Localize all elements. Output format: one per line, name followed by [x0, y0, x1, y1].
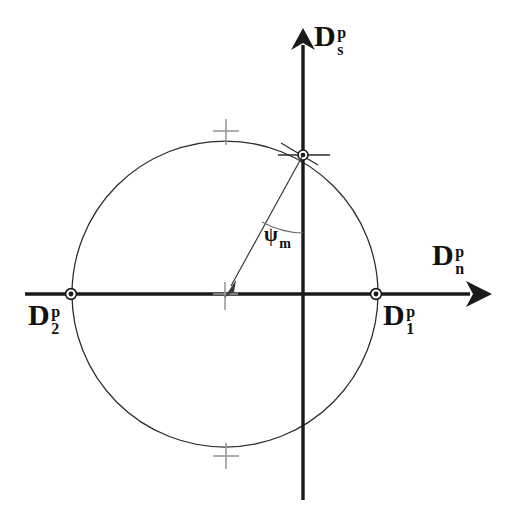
point-marker-d1 — [371, 289, 382, 300]
axis-label-ds: Dps — [314, 21, 346, 59]
point-label-d1-scripts: p1 — [406, 304, 415, 336]
point-label-d1-superscript: p — [406, 304, 415, 320]
angle-label-psi-subscript: m — [279, 236, 291, 251]
point-label-d2-superscript: p — [51, 304, 60, 320]
point-label-d2-scripts: p2 — [51, 304, 60, 336]
mohr-circle-figure: Dps Dpn Dp2 Dp1 ψm — [0, 0, 522, 517]
axis-label-ds-base: D — [314, 19, 336, 52]
axis-label-ds-subscript: s — [337, 42, 343, 58]
point-marker-d2 — [66, 289, 77, 300]
axis-label-ds-scripts: ps — [337, 25, 346, 57]
point-label-d1: Dp1 — [383, 300, 415, 338]
axis-label-dn-base: D — [432, 238, 454, 271]
axis-label-dn-subscript: n — [455, 261, 464, 277]
angle-label-psi: ψm — [264, 224, 290, 248]
axis-label-dn-superscript: p — [455, 244, 464, 260]
angle-label-psi-symbol: ψ — [264, 223, 278, 245]
point-label-d2-subscript: 2 — [51, 321, 59, 337]
point-label-d1-subscript: 1 — [406, 321, 414, 337]
point-label-d1-base: D — [383, 298, 405, 331]
point-label-d2-base: D — [28, 298, 50, 331]
point-label-d2: Dp2 — [28, 300, 60, 338]
axis-label-dn: Dpn — [432, 240, 464, 278]
axis-label-dn-scripts: pn — [455, 244, 464, 276]
axis-label-ds-superscript: p — [337, 25, 346, 41]
